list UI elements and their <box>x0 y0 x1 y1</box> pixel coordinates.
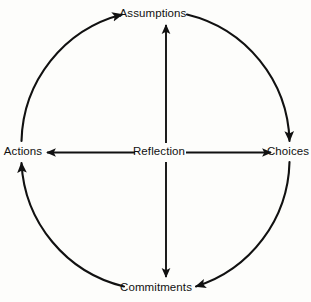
node-label-reflection: Reflection <box>133 146 185 158</box>
node-label-commitments: Commitments <box>120 282 192 294</box>
arc-actions-to-assumptions <box>22 15 123 142</box>
arc-assumptions-to-choices <box>187 15 290 142</box>
node-label-assumptions: Assumptions <box>120 8 187 20</box>
arc-choices-to-commitments <box>196 162 290 287</box>
arc-commitments-to-actions <box>22 163 125 287</box>
reflection-cycle-diagram: Assumptions Choices Commitments Actions … <box>0 0 311 302</box>
node-label-actions: Actions <box>4 146 42 158</box>
node-label-choices: Choices <box>267 146 309 158</box>
